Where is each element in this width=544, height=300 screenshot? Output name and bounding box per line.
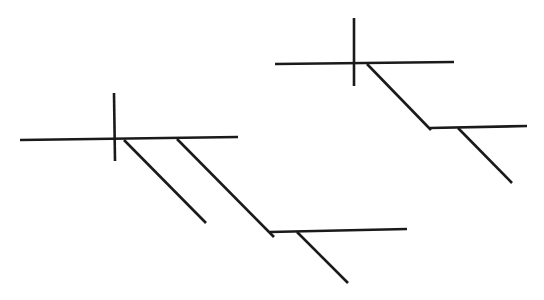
- left-figure-diagonal-short-line: [124, 140, 206, 223]
- left-figure-cross-vertical-line: [114, 93, 115, 161]
- left-figure-main-horizontal-line: [20, 137, 238, 140]
- right-figure-lower-horizontal-line: [430, 126, 527, 128]
- left-figure-diagonal-long-line: [177, 139, 274, 237]
- left-figure-lower-diagonal-line: [297, 232, 348, 283]
- right-figure-main-horizontal-line: [275, 62, 454, 64]
- right-figure: [275, 18, 527, 183]
- line-diagram: [0, 0, 544, 300]
- left-figure-lower-horizontal-line: [270, 229, 407, 232]
- right-figure-lower-diagonal-line: [458, 128, 512, 183]
- right-figure-diagonal-line: [367, 64, 431, 130]
- diagram-canvas: [0, 0, 544, 300]
- left-figure: [20, 93, 407, 283]
